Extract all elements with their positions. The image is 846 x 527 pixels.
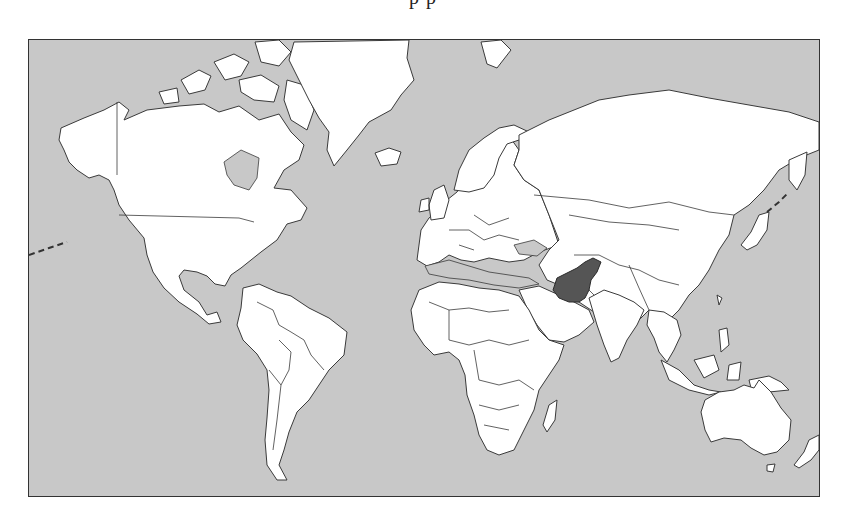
kuril-islands [767, 192, 789, 212]
philippines [719, 328, 729, 352]
alaska-aleutian-chain [29, 242, 67, 255]
taiwan [717, 295, 722, 305]
map-svg [29, 40, 819, 496]
british-isles [419, 185, 449, 220]
south-america [237, 284, 347, 480]
southeast-asia [647, 310, 681, 362]
japan [741, 212, 769, 250]
cropped-title-text: p p [0, 0, 846, 6]
indonesia [661, 355, 789, 395]
svalbard [481, 40, 511, 68]
iceland [375, 148, 401, 166]
madagascar [543, 400, 557, 432]
tasmania [767, 464, 775, 472]
world-map [28, 39, 820, 497]
new-zealand [794, 435, 819, 468]
